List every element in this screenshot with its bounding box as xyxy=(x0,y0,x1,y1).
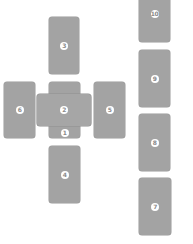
card-4: 4 xyxy=(49,146,80,203)
card-7: 7 xyxy=(139,178,171,235)
card-8: 8 xyxy=(139,114,170,171)
card-6: 6 xyxy=(4,82,35,138)
card-5: 5 xyxy=(94,82,125,138)
card-6-number: 6 xyxy=(16,106,24,114)
card-5-number: 5 xyxy=(106,106,114,114)
card-3: 3 xyxy=(49,17,79,74)
card-2-number: 2 xyxy=(60,106,68,114)
card-1-number: 1 xyxy=(61,129,69,137)
card-4-number: 4 xyxy=(61,171,69,179)
card-3-number: 3 xyxy=(60,42,68,50)
card-9: 9 xyxy=(139,50,170,107)
card-7-number: 7 xyxy=(151,203,159,211)
card-10-number: 10 xyxy=(151,10,159,18)
card-2: 2 xyxy=(37,94,91,126)
card-8-number: 8 xyxy=(151,139,159,147)
celtic-cross-diagram: 1 2 3 4 5 6 7 8 9 10 xyxy=(0,0,193,244)
card-10: 10 xyxy=(139,0,170,42)
card-9-number: 9 xyxy=(151,75,159,83)
